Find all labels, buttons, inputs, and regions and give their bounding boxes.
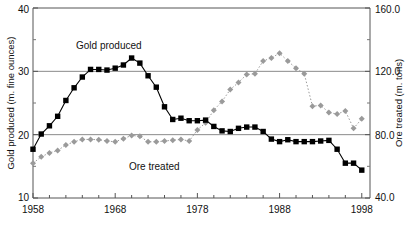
data-point — [219, 128, 224, 133]
data-point — [71, 85, 76, 90]
data-point — [186, 118, 191, 123]
data-point — [63, 98, 68, 103]
data-point — [145, 73, 150, 78]
chart-background — [0, 0, 414, 229]
data-point — [137, 60, 142, 65]
data-point — [178, 116, 183, 121]
y-tick-label-right-80.0: 80.0 — [375, 130, 395, 141]
y-tick-label-right-160.0: 160.0 — [375, 4, 400, 15]
data-point — [334, 147, 339, 152]
data-point — [343, 160, 348, 165]
data-point — [310, 139, 315, 144]
data-point — [154, 84, 159, 89]
y-tick-label-right-40.0: 40.0 — [375, 192, 395, 203]
data-point — [203, 117, 208, 122]
data-point — [39, 131, 44, 136]
data-point — [113, 65, 118, 70]
data-point — [302, 139, 307, 144]
data-point — [170, 117, 175, 122]
y-tick-label-left-10: 10 — [18, 192, 30, 203]
chart-container: 19581968197819881998 10203040 40.080.012… — [0, 0, 414, 229]
data-point — [318, 138, 323, 143]
x-tick-label-1988: 1988 — [268, 204, 291, 215]
y-tick-label-left-30: 30 — [18, 66, 30, 77]
x-tick-label-1998: 1998 — [351, 204, 374, 215]
data-point — [195, 118, 200, 123]
x-tick-label-1958: 1958 — [22, 204, 45, 215]
data-point — [285, 137, 290, 142]
y-axis-left-title: Gold produced (m. fine ounces) — [5, 36, 16, 169]
data-point — [244, 124, 249, 129]
data-point — [55, 114, 60, 119]
data-point — [80, 74, 85, 79]
annotation-gold-produced: Gold produced — [76, 40, 142, 51]
x-tick-label-1978: 1978 — [186, 204, 209, 215]
data-point — [104, 67, 109, 72]
data-point — [211, 124, 216, 129]
data-point — [236, 126, 241, 131]
data-point — [252, 124, 257, 129]
y-axis-right-title: Ore treated (m. tons) — [393, 59, 404, 147]
data-point — [121, 62, 126, 67]
data-point — [359, 167, 364, 172]
data-point — [351, 160, 356, 165]
data-point — [260, 129, 265, 134]
y-tick-label-left-20: 20 — [18, 130, 30, 141]
annotation-ore-treated: Ore treated — [129, 161, 180, 172]
data-point — [96, 67, 101, 72]
data-point — [47, 123, 52, 128]
data-point — [326, 138, 331, 143]
data-point — [30, 147, 35, 152]
data-point — [162, 104, 167, 109]
y-tick-label-left-40: 40 — [18, 4, 30, 15]
data-point — [129, 55, 134, 60]
data-point — [228, 129, 233, 134]
data-point — [277, 139, 282, 144]
x-tick-label-1968: 1968 — [104, 204, 127, 215]
data-point — [269, 136, 274, 141]
data-point — [88, 67, 93, 72]
gold-ore-dual-axis-line-chart: 19581968197819881998 10203040 40.080.012… — [0, 0, 414, 229]
data-point — [293, 139, 298, 144]
